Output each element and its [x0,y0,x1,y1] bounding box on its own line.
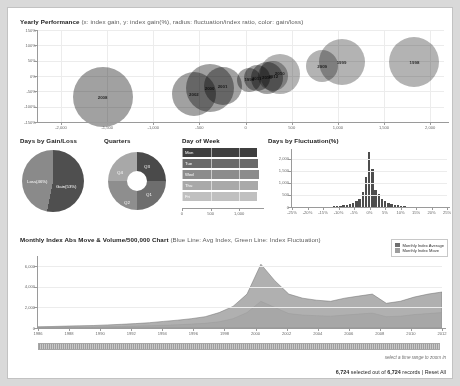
histogram-bar[interactable] [358,199,361,207]
bottom-x-tick-label: 2006 [340,331,358,336]
x-tick [61,122,62,125]
legend-swatch-average [395,243,400,248]
hist-x-tick [432,207,433,210]
legend-item-average[interactable]: Monthly Index Average [395,243,444,248]
legend-item-move[interactable]: Monthly Index Move [395,248,444,253]
hist-y-tick [288,171,291,172]
status-selected-count: 6,724 [336,369,350,375]
bottom-x-tick [318,328,319,331]
bottom-y-tick-label: 4,000 [14,284,35,289]
bottom-x-tick-label: 2004 [309,331,327,336]
monthly-index-legend: Monthly Index Average Monthly Index Move [391,239,448,257]
x-tick-label: 1,500 [374,125,394,130]
dow-grid-line [182,148,183,206]
pie-slice-loss-label: Loss(46%) [27,179,48,184]
monthly-index-area-plot[interactable] [38,256,442,328]
dow-bar-tue[interactable]: Tue [182,159,258,168]
histogram-bar[interactable] [368,152,371,207]
hist-x-tick [385,207,386,210]
x-axis-line [37,122,449,123]
y-tick-label: -100% [16,104,36,109]
hist-grid-line [292,195,447,196]
hist-grid-line [292,159,447,160]
histogram-bar[interactable] [371,169,374,207]
bottom-x-tick-label: 2000 [247,331,265,336]
bottom-x-axis-line [37,328,446,329]
x-tick-label: -1,000 [143,125,163,130]
x-tick [338,122,339,125]
yearly-performance-title: Yearly Performance (x: index gain, y: in… [20,18,303,25]
bottom-x-tick [442,328,443,331]
y-tick-label: -150% [16,120,36,125]
y-tick-label: 150% [16,28,36,33]
dow-axis-line [182,208,264,209]
x-tick-label: 2,000 [420,125,440,130]
histogram-bar[interactable] [381,199,384,207]
hist-y-tick-label: 0 [268,205,289,210]
hist-grid-line [292,183,447,184]
bottom-x-tick [131,328,132,331]
status-bar: 6,724 selected out of 6,724 records | Re… [336,369,446,375]
bottom-y-tick-label: 6,000 [14,264,35,269]
time-range-brush[interactable] [38,343,440,350]
hist-x-tick-label: 10% [393,210,409,215]
day-of-week-bars[interactable]: MonTueWedThuFri [182,148,262,208]
bubble-2008[interactable]: 2008 [73,67,133,127]
x-tick [153,122,154,125]
y-tick [34,76,37,77]
hist-x-tick [354,207,355,210]
x-tick [430,122,431,125]
hist-x-tick [401,207,402,210]
hist-y-tick-label: 1,000 [268,180,289,185]
pie-slice-gain-label: Gain(53%) [56,184,77,189]
monthly-index-title-text: Monthly Index Abs Move & Volume/500,000 … [20,236,169,243]
x-tick-label: 0 [236,125,256,130]
donut-label-q1: Q1 [146,192,152,197]
hist-y-tick [288,159,291,160]
bottom-x-tick [69,328,70,331]
hist-x-tick [292,207,293,210]
status-mid-text: selected out of [349,369,387,375]
dow-tick [211,208,212,211]
bubble-2001[interactable]: 2001 [204,67,242,105]
reset-all-link[interactable]: Reset All [425,369,446,375]
x-tick-label: 500 [282,125,302,130]
yearly-performance-title-text: Yearly Performance [20,18,80,25]
hist-x-tick [308,207,309,210]
yearly-performance-plot[interactable]: 2008200220002001199020112015201220102009… [38,30,444,122]
bottom-x-tick-label: 2010 [402,331,420,336]
bottom-x-tick [349,328,350,331]
hist-x-tick-label: 25% [439,210,455,215]
monthly-index-panel: Monthly Index Abs Move & Volume/500,000 … [8,228,454,380]
bottom-x-tick-label: 1998 [215,331,233,336]
y-tick-label: 100% [16,43,36,48]
bottom-x-tick [256,328,257,331]
dow-bar-mon[interactable]: Mon [182,148,257,157]
histogram-bar[interactable] [365,177,368,207]
grid-line-horizontal [38,45,444,46]
hist-x-tick-label: -10% [331,210,347,215]
hist-grid-line [292,171,447,172]
bottom-grid-line [38,287,442,288]
dow-tick-label: 1,000 [230,211,248,216]
bottom-grid-line [38,307,442,308]
hist-x-tick [370,207,371,210]
bottom-x-tick [193,328,194,331]
bubble-2010[interactable]: 2010 [260,54,300,94]
dow-bar-thu[interactable]: Thu [182,181,258,190]
x-tick [384,122,385,125]
bottom-x-tick [162,328,163,331]
fluctuation-histogram[interactable] [292,149,447,207]
hist-x-tick-label: 0% [362,210,378,215]
days-by-fluctuation-title: Days by Fluctuation(%) [268,137,339,144]
dow-bar-wed[interactable]: Wed [182,170,259,179]
bubble-1998[interactable]: 1998 [389,37,439,87]
dow-bar-fri[interactable]: Fri [182,192,257,201]
hist-y-tick-label: 1,500 [268,168,289,173]
bottom-x-tick-label: 2012 [433,331,451,336]
hist-x-axis-line [291,207,450,208]
donut-hole [127,171,147,191]
histogram-bar[interactable] [374,190,377,207]
y-tick-label: -50% [16,89,36,94]
bubble-1999[interactable]: 1999 [319,39,365,85]
